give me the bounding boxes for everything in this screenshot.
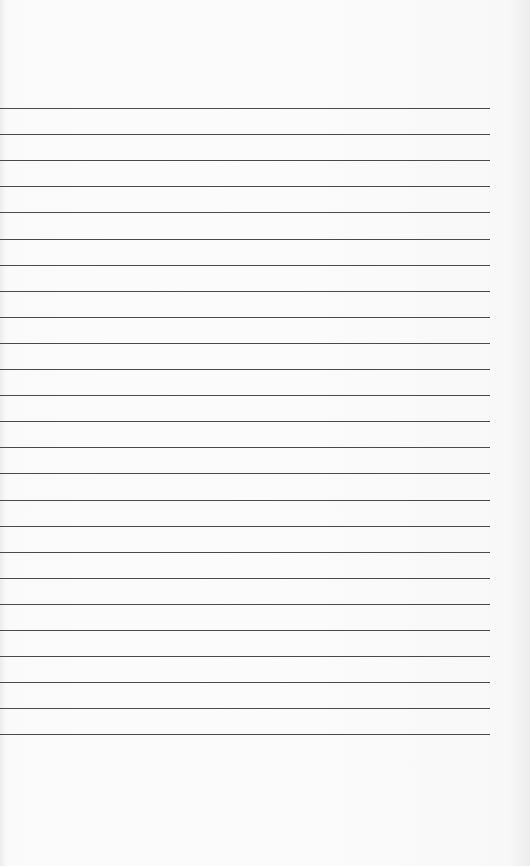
ruled-line bbox=[0, 447, 490, 448]
ruled-line bbox=[0, 682, 490, 683]
ruled-line bbox=[0, 160, 490, 161]
lined-paper-page bbox=[0, 0, 530, 866]
ruled-line bbox=[0, 108, 490, 109]
ruled-line bbox=[0, 604, 490, 605]
ruled-line bbox=[0, 134, 490, 135]
ruled-line bbox=[0, 369, 490, 370]
ruled-line bbox=[0, 473, 490, 474]
ruled-line bbox=[0, 578, 490, 579]
ruled-line bbox=[0, 708, 490, 709]
ruled-line bbox=[0, 421, 490, 422]
ruled-line bbox=[0, 265, 490, 266]
ruled-line bbox=[0, 186, 490, 187]
ruled-line bbox=[0, 212, 490, 213]
ruled-line bbox=[0, 317, 490, 318]
ruled-line bbox=[0, 500, 490, 501]
ruled-line bbox=[0, 734, 490, 735]
ruled-line bbox=[0, 239, 490, 240]
ruled-line bbox=[0, 552, 490, 553]
ruled-line bbox=[0, 291, 490, 292]
ruled-line bbox=[0, 656, 490, 657]
ruled-line bbox=[0, 395, 490, 396]
ruled-line bbox=[0, 526, 490, 527]
ruled-line bbox=[0, 630, 490, 631]
ruled-line bbox=[0, 343, 490, 344]
